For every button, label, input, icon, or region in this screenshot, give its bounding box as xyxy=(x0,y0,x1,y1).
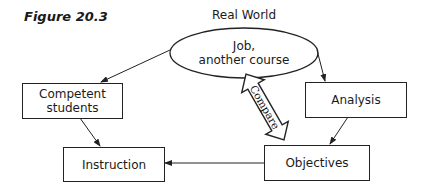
real-world-line2: another course xyxy=(180,53,308,67)
objectives-box: Objectives xyxy=(264,145,370,181)
competent-students-box: Competent students xyxy=(22,83,123,119)
edge-ellipse-to-analysis xyxy=(317,50,325,81)
edge-analysis-to-objectives xyxy=(330,117,348,144)
compare-label: Compare xyxy=(248,83,283,131)
competent-line1: Competent xyxy=(39,87,106,101)
real-world-line1: Job, xyxy=(180,39,308,53)
real-world-node-text: Job, another course xyxy=(180,39,308,67)
objectives-label: Objectives xyxy=(285,156,348,170)
compare-double-arrow: Compare xyxy=(235,68,296,147)
competent-line2: students xyxy=(39,101,106,115)
real-world-label: Real World xyxy=(203,8,285,22)
edge-competent-to-instruction xyxy=(80,118,100,146)
edge-ellipse-to-competent xyxy=(101,50,170,82)
figure-title: Figure 20.3 xyxy=(24,9,108,24)
instruction-box: Instruction xyxy=(63,147,165,182)
analysis-label: Analysis xyxy=(331,93,380,107)
instruction-label: Instruction xyxy=(82,158,146,172)
analysis-box: Analysis xyxy=(305,82,407,118)
